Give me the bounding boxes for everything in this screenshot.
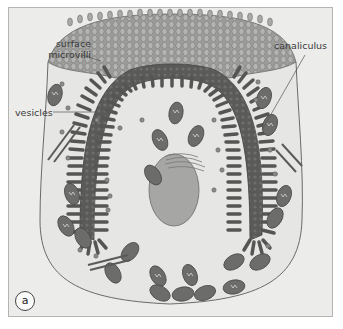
- panel-label-badge: a: [15, 291, 35, 311]
- nucleus: [149, 154, 199, 226]
- label-surface-line2: microvilli: [31, 49, 91, 60]
- label-canaliculus: canaliculus: [274, 40, 327, 51]
- label-surface-line1: surface: [31, 38, 91, 49]
- label-surface-microvilli: surface microvilli: [31, 38, 91, 60]
- label-vesicles: vesicles: [15, 107, 53, 118]
